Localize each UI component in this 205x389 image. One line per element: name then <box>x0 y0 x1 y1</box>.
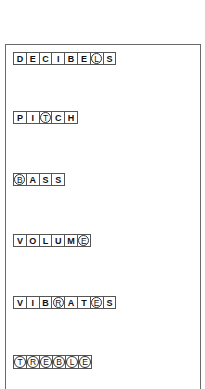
letter-box-circled: E <box>77 234 91 247</box>
letter: I <box>31 298 34 308</box>
letter: O <box>29 236 36 246</box>
letter: T <box>81 298 87 308</box>
letter-box: H <box>64 111 78 124</box>
letter-box-circled: T <box>13 355 27 369</box>
word-row-pitch: PITCH <box>13 111 77 124</box>
letter: V <box>17 298 23 308</box>
letter-box: A <box>26 173 40 186</box>
letter: S <box>106 298 112 308</box>
letter-box-circled: L <box>65 355 79 369</box>
letter-box: I <box>26 111 40 124</box>
letter: I <box>57 54 60 64</box>
letter: U <box>55 236 62 246</box>
letter-box: M <box>64 234 78 247</box>
letter: B <box>53 356 65 368</box>
letter: I <box>31 113 34 123</box>
letter: B <box>14 174 25 185</box>
letter: H <box>68 113 75 123</box>
letter-box: L <box>39 234 53 247</box>
letter-box: U <box>51 234 65 247</box>
letter-box: D <box>13 52 27 65</box>
word-row-decibels: DECIBELS <box>13 52 115 65</box>
letter: E <box>40 356 52 368</box>
letter-box-circled: E <box>90 296 104 309</box>
letter: R <box>53 297 64 308</box>
letter: L <box>66 356 78 368</box>
letter: E <box>81 54 87 64</box>
letter: P <box>17 113 23 123</box>
letter-box: C <box>39 52 53 65</box>
letter-box: P <box>13 111 27 124</box>
letter: E <box>91 297 102 308</box>
letter-box: E <box>26 52 40 65</box>
letter: S <box>106 54 112 64</box>
letter: V <box>17 236 23 246</box>
letter: D <box>17 54 24 64</box>
letter: A <box>29 175 36 185</box>
letter: L <box>91 53 102 64</box>
letter: T <box>14 356 26 368</box>
letter: B <box>42 298 49 308</box>
letter-box-circled: E <box>39 355 53 369</box>
letter-box: B <box>64 52 78 65</box>
letter: A <box>68 298 75 308</box>
letter: S <box>42 175 48 185</box>
letter-box-circled: E <box>78 355 92 369</box>
letter-box: E <box>77 52 91 65</box>
letter: C <box>42 54 49 64</box>
letter: C <box>55 113 62 123</box>
letter-box: S <box>103 52 117 65</box>
letter-box-circled: R <box>26 355 40 369</box>
letter-box: S <box>51 173 65 186</box>
letter-box: I <box>51 52 65 65</box>
letter: R <box>27 356 39 368</box>
letter-box-circled: B <box>13 173 27 186</box>
letter-box: A <box>64 296 78 309</box>
letter-box: O <box>26 234 40 247</box>
letter-box-circled: R <box>51 296 65 309</box>
letter-box: V <box>13 234 27 247</box>
letter-box: I <box>26 296 40 309</box>
letter: E <box>78 235 89 246</box>
letter-box: T <box>77 296 91 309</box>
word-row-volume: VOLUME <box>13 234 90 247</box>
letter-box: S <box>103 296 117 309</box>
word-row-bass: BASS <box>13 173 64 186</box>
word-row-vibrates: VIBRATES <box>13 296 115 309</box>
letter-box-circled: L <box>90 52 104 65</box>
puzzle-frame <box>5 44 201 389</box>
letter-box: B <box>39 296 53 309</box>
letter-box-circled: T <box>39 111 53 124</box>
letter-box: S <box>39 173 53 186</box>
letter: M <box>67 236 75 246</box>
letter: S <box>55 175 61 185</box>
letter: E <box>30 54 36 64</box>
letter-box: C <box>51 111 65 124</box>
letter: L <box>43 236 49 246</box>
letter: B <box>68 54 75 64</box>
letter: E <box>79 356 91 368</box>
letter-box: V <box>13 296 27 309</box>
letter-box-circled: B <box>52 355 66 369</box>
word-row-treble: TREBLE <box>13 355 91 369</box>
letter: T <box>40 112 51 123</box>
